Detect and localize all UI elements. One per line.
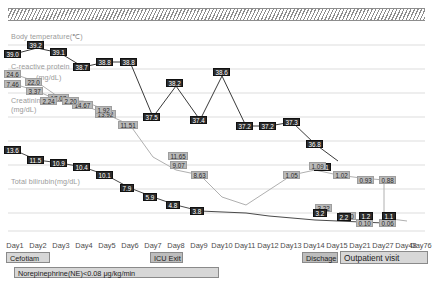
data-label: 38.7 (73, 63, 90, 71)
clinical-course-chart: Body temperature(℃) C-reactive protein (… (0, 0, 433, 286)
data-label: 38.8 (120, 58, 137, 66)
data-label: 8.63 (191, 171, 208, 179)
data-label: 1.92 (95, 106, 112, 114)
event-bar-outpatient-visit[interactable]: Outpatient visit (340, 251, 428, 264)
data-label: 39.1 (50, 48, 67, 56)
data-label: 36.8 (306, 140, 323, 148)
data-label: 38.6 (213, 68, 230, 76)
data-label: 37.2 (259, 122, 276, 130)
x-tick-label: Day76 (408, 241, 433, 250)
data-label: 37.2 (236, 122, 253, 130)
data-label: 24.6 (4, 70, 21, 78)
axis-title-temperature: Body temperature(℃) (11, 32, 83, 41)
data-label: 22.0 (25, 78, 42, 86)
data-label: 38.2 (166, 79, 183, 87)
axis-title-bilirubin: Total bilirubin(mg/dL) (11, 177, 80, 186)
data-label: 0.93 (357, 176, 374, 184)
axis-title-creatinine-unit: (mg/dL) (11, 105, 36, 114)
data-label: 3.37 (26, 87, 43, 95)
data-label: 2.20 (62, 97, 79, 105)
x-tick-label: Day5 (96, 241, 118, 250)
data-label: 37.4 (190, 116, 207, 124)
data-label: 3.8 (190, 207, 204, 215)
x-tick-label: Day8 (165, 241, 187, 250)
data-label: 11.65 (168, 152, 188, 160)
x-tick-label: Day1 (4, 241, 26, 250)
data-label: 13.6 (4, 146, 21, 154)
data-label: 1.05 (283, 171, 300, 179)
data-label: 9.07 (170, 161, 187, 169)
data-label: 5.9 (143, 193, 157, 201)
data-label: 39.0 (4, 50, 21, 58)
data-label: 39.2 (27, 41, 44, 49)
x-tick-label: Day7 (142, 241, 164, 250)
x-tick-label: Day9 (188, 241, 210, 250)
data-label: 2.24 (40, 97, 57, 105)
data-label: 0.88 (379, 176, 396, 184)
data-label: 37.3 (283, 118, 300, 126)
data-label: 37.5 (143, 113, 160, 121)
x-tick-label: Day6 (119, 241, 141, 250)
data-label: 10.9 (50, 159, 67, 167)
x-tick-label: Day4 (73, 241, 95, 250)
data-label: 7.46 (4, 80, 21, 88)
data-label: 7.9 (120, 184, 134, 192)
event-bar-icu-exit[interactable]: ICU Exit (150, 252, 183, 263)
treatment-bar-cefotiam[interactable]: Cefotiam (6, 252, 50, 263)
data-label: 11.5 (27, 156, 44, 164)
data-label: 4.8 (166, 201, 180, 209)
data-label: 1.09 (309, 162, 326, 170)
data-label: 10.4 (73, 163, 90, 171)
data-label: 38.8 (96, 58, 113, 66)
data-label: 3.2 (313, 209, 327, 217)
event-bar-discharge[interactable]: Dischage (302, 252, 338, 263)
data-label: 1.2 (359, 212, 373, 220)
x-tick-label: Day3 (50, 241, 72, 250)
data-label: 2.2 (337, 213, 351, 221)
treatment-bar-norepinephrine[interactable]: Norepinephrine(NE)<0.08 μg/kg/min (14, 267, 219, 278)
data-label: 11.51 (118, 121, 138, 129)
data-label: 1.02 (333, 171, 350, 179)
x-tick-label: Day2 (27, 241, 49, 250)
data-label: 1.1 (382, 212, 396, 220)
data-label: 10.1 (96, 171, 113, 179)
